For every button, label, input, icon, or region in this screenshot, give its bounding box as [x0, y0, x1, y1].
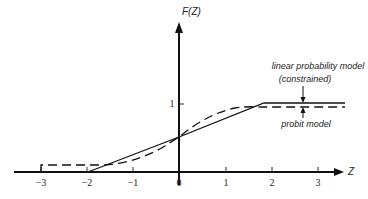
x-tick-label: 2: [270, 177, 275, 188]
probit-label: probit model: [280, 119, 332, 129]
lpm-label: linear probability model: [272, 61, 366, 71]
arrow-down-icon: [301, 97, 306, 103]
x-tick-label: −2: [82, 177, 93, 188]
lpm-label-sub: (constrained): [279, 74, 332, 84]
arrow-up-icon: [301, 107, 306, 113]
x-tick-label: 1: [224, 177, 229, 188]
x-tick-label: 0: [177, 177, 182, 188]
y-axis-label: F(Z): [182, 6, 201, 17]
x-tick-label: −1: [128, 177, 139, 188]
x-axis-label: Z: [347, 166, 355, 177]
y-tick-label: 1: [170, 98, 175, 109]
x-tick-label: −3: [36, 177, 47, 188]
x-tick-label: 3: [316, 177, 321, 188]
chart-canvas: −3 −2 −1 0 1 2 3 1 F(Z) Z linear probabi…: [0, 0, 368, 199]
x-axis-arrow-icon: [334, 168, 344, 176]
y-axis-arrow-icon: [175, 22, 183, 33]
probit-curve: [41, 107, 345, 172]
